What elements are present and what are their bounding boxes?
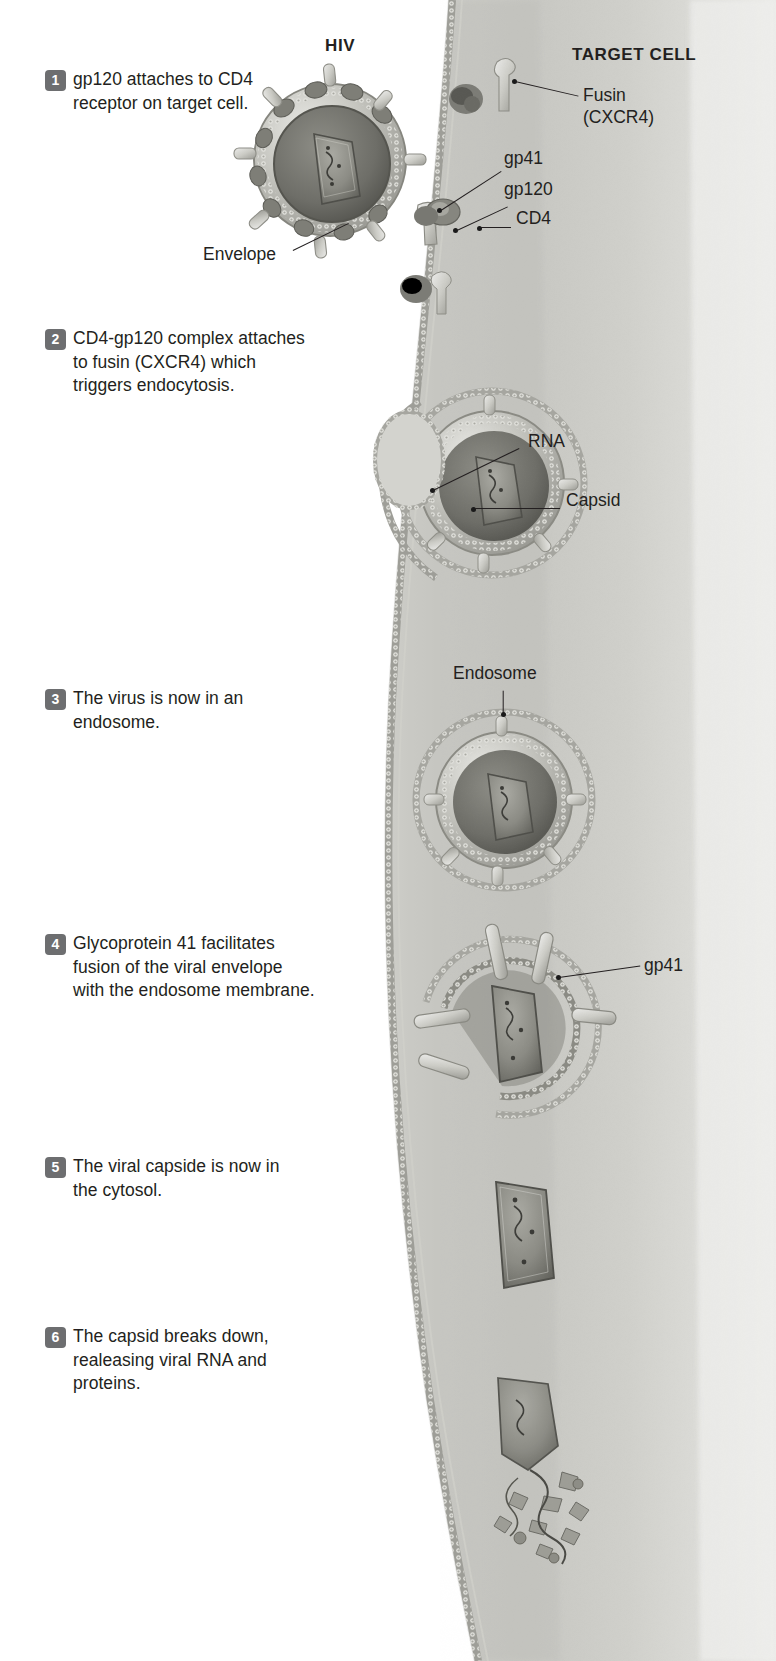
step-item-4: 4 Glycoprotein 41 facilitates fusion of … — [45, 932, 317, 1003]
step-number-4: 4 — [45, 934, 66, 955]
step-text-5: The viral capside is now in the cytosol. — [73, 1155, 307, 1202]
label-fusin-line1: Fusin — [583, 84, 626, 106]
label-gp120: gp120 — [504, 178, 553, 200]
step-number-1: 1 — [45, 70, 66, 91]
label-cd4: CD4 — [516, 207, 551, 229]
endosome-anchor-dot — [501, 712, 506, 717]
step-item-2: 2 CD4-gp120 complex attaches to fusin (C… — [45, 327, 317, 398]
label-rna: RNA — [528, 430, 565, 452]
step-number-3: 3 — [45, 689, 66, 710]
step-list: 1 gp120 attaches to CD4 receptor on targ… — [0, 0, 330, 1661]
cd4-leader-line — [481, 227, 511, 228]
label-fusin-line2: (CXCR4) — [583, 106, 654, 128]
step-text-6: The capsid breaks down, realeasing viral… — [73, 1325, 313, 1396]
heading-target-cell: TARGET CELL — [572, 45, 696, 65]
step-item-3: 3 The virus is now in an endosome. — [45, 687, 315, 734]
step-text-3: The virus is now in an endosome. — [73, 687, 315, 734]
step-number-2: 2 — [45, 329, 66, 350]
step-number-6: 6 — [45, 1327, 66, 1348]
capsid-leader-line — [475, 508, 560, 509]
step-number-5: 5 — [45, 1157, 66, 1178]
figure-canvas: HIV TARGET CELL 1 gp120 attaches to CD4 … — [0, 0, 776, 1661]
label-capsid: Capsid — [566, 489, 620, 511]
step-text-1: gp120 attaches to CD4 receptor on target… — [73, 68, 315, 115]
label-gp41-step4: gp41 — [644, 954, 683, 976]
step-text-2: CD4-gp120 complex attaches to fusin (CXC… — [73, 327, 317, 398]
step-item-1: 1 gp120 attaches to CD4 receptor on targ… — [45, 68, 315, 115]
label-envelope: Envelope — [203, 243, 276, 265]
step-item-5: 5 The viral capside is now in the cytoso… — [45, 1155, 307, 1202]
step-text-4: Glycoprotein 41 facilitates fusion of th… — [73, 932, 317, 1003]
step-item-6: 6 The capsid breaks down, realeasing vir… — [45, 1325, 313, 1396]
label-gp41-top: gp41 — [504, 147, 543, 169]
label-endosome: Endosome — [453, 662, 537, 684]
